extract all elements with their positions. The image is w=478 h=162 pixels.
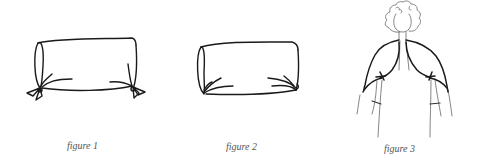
tied-bolster-illustration <box>0 0 160 162</box>
figure-1: figure 1 <box>0 0 160 162</box>
figure-3: figure 3 <box>320 0 478 162</box>
figure-1-caption: figure 1 <box>67 140 98 151</box>
figure-3-caption: figure 3 <box>384 143 415 154</box>
figure-2-caption: figure 2 <box>226 141 257 152</box>
figure-2: figure 2 <box>160 0 320 162</box>
gathered-bolster-illustration <box>160 0 320 162</box>
person-wearing-wrap-illustration <box>320 0 478 162</box>
